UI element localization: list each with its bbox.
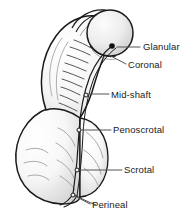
scrotum-shape [16, 106, 108, 204]
label-perineal: Perineal [92, 199, 128, 210]
marker-scrotal [75, 168, 79, 172]
anatomy-figure: Glanular Coronal Mid-shaft Penoscrotal S… [0, 0, 192, 217]
label-mid-shaft: Mid-shaft [111, 89, 151, 100]
label-glanular: Glanular [143, 41, 180, 52]
label-scrotal: Scrotal [124, 164, 154, 175]
label-penoscrotal: Penoscrotal [113, 124, 164, 135]
glans-head [87, 10, 133, 56]
label-coronal: Coronal [128, 59, 162, 70]
marker-penoscrotal [77, 128, 81, 132]
marker-glanular [109, 43, 115, 49]
marker-perineal [71, 193, 75, 197]
anatomy-illustration [0, 0, 192, 217]
marker-mid-shaft [84, 93, 88, 97]
